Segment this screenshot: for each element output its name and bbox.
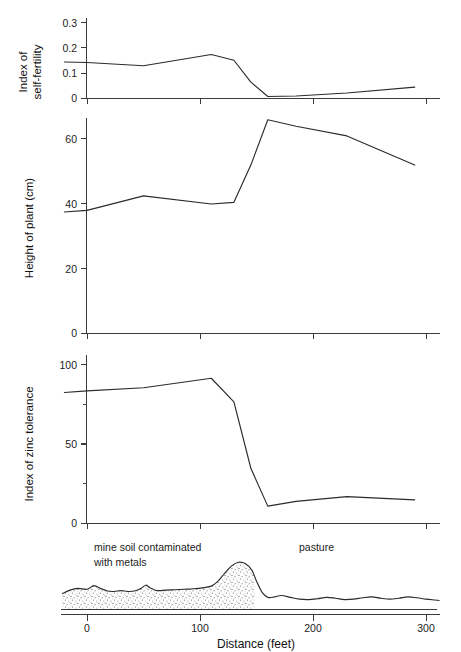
xticklabel-100: 100 [191, 622, 209, 634]
panel1-ylabel-line2: self-fertility [31, 44, 43, 99]
panel-plant-height: Height of plant (cm) 60 40 20 0 [23, 118, 440, 339]
panel1-yticklabel-0: 0 [71, 92, 77, 104]
xticklabel-300: 300 [417, 622, 435, 634]
xticklabel-0: 0 [84, 622, 90, 634]
zone-label-pasture: pasture [299, 541, 334, 553]
xticklabel-200: 200 [304, 622, 322, 634]
panel3-yticklabel-100: 100 [59, 359, 77, 371]
panel-zinc-tolerance: Index of zinc tolerance 100 50 0 [23, 355, 440, 529]
panel3-yticklabel-50: 50 [65, 438, 77, 450]
zone-label-mine-line2: with metals [93, 556, 147, 568]
figure-canvas: Index of self-fertility 0.3 0.2 0.1 0 He… [0, 0, 461, 652]
zone-label-mine-line1: mine soil contaminated [94, 541, 202, 553]
panel2-yticklabel-20: 20 [65, 263, 77, 275]
panel1-yticklabel-0.2: 0.2 [62, 42, 77, 54]
panel1-yticklabel-0.1: 0.1 [62, 67, 77, 79]
x-axis-title: Distance (feet) [217, 637, 295, 651]
panel2-yticklabel-60: 60 [65, 133, 77, 145]
plant-height-series [64, 120, 414, 212]
panel3-yticklabel-0: 0 [71, 517, 77, 529]
panel3-ylabel: Index of zinc tolerance [23, 386, 35, 501]
zinc-tolerance-series [64, 378, 414, 506]
transect-figure: Index of self-fertility 0.3 0.2 0.1 0 He… [0, 0, 461, 652]
panel-self-fertility: Index of self-fertility 0.3 0.2 0.1 0 [17, 17, 440, 105]
panel1-yticklabel-0.3: 0.3 [62, 17, 77, 29]
panel2-yticklabel-0: 0 [71, 327, 77, 339]
panel-soil-profile: mine soil contaminated with metals pastu… [61, 541, 440, 651]
panel2-ylabel: Height of plant (cm) [23, 178, 35, 279]
panel2-yticklabel-40: 40 [65, 198, 77, 210]
self-fertility-series [64, 54, 414, 96]
panel1-ylabel-line1: Index of [17, 51, 29, 93]
